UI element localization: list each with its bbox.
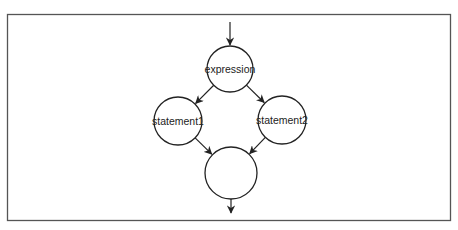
node-label: expression xyxy=(205,63,256,75)
node-label: statement1 xyxy=(152,115,204,127)
node-expression: expression xyxy=(205,46,256,92)
diagram-canvas: expressionstatement1statement2 xyxy=(0,0,458,230)
edge-statement2-to-join xyxy=(250,137,266,153)
edge-expression-to-statement2 xyxy=(246,85,264,102)
node-label: statement2 xyxy=(256,114,308,126)
node-join xyxy=(205,147,257,199)
node-statement1: statement1 xyxy=(152,97,204,145)
node-statement2: statement2 xyxy=(256,96,308,144)
edge-statement1-to-join xyxy=(195,138,212,154)
edge-expression-to-statement1 xyxy=(196,85,214,103)
node-circle xyxy=(205,147,257,199)
